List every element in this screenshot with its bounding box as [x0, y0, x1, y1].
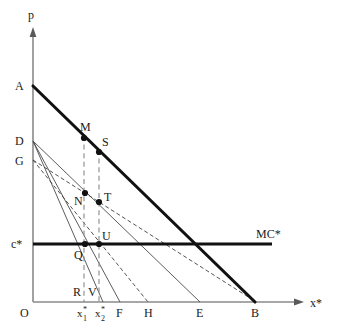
label-S: S: [102, 135, 109, 149]
x-tick-x2-star: *: [101, 305, 105, 314]
label-A: A: [15, 79, 24, 93]
label-V: V: [88, 285, 97, 299]
label-F: F: [116, 306, 123, 320]
line-D-to-inner-foot: [33, 141, 103, 302]
label-E: E: [196, 306, 203, 320]
label-B: B: [251, 306, 259, 320]
x-axis-label: x*: [310, 296, 322, 310]
label-N: N: [74, 194, 83, 208]
label-T: T: [104, 190, 112, 204]
vertical-guide-lines: [84, 136, 99, 302]
economics-figure: p x* O A D G c* MC* M S N T Q U R V x 1 …: [0, 0, 339, 333]
point-T: [96, 199, 102, 205]
point-S: [96, 149, 102, 155]
x-axis-arrow: [294, 299, 304, 306]
label-U: U: [102, 229, 111, 243]
label-c-star: c*: [11, 237, 22, 251]
demand-curve-AB: [33, 86, 255, 302]
label-M: M: [80, 120, 91, 134]
x-tick-x2: x 2 *: [95, 305, 105, 323]
axes-group: [30, 27, 304, 305]
x-tick-x1-subscript: 1: [83, 314, 87, 323]
label-G: G: [15, 154, 24, 168]
dashed-marginal-revenue-lines: [33, 160, 253, 302]
x-tick-x2-subscript: 2: [101, 314, 105, 323]
x-tick-x1-star: *: [83, 305, 87, 314]
point-Q: [82, 241, 88, 247]
label-MC-star: MC*: [256, 227, 281, 241]
x-tick-x1: x 1 *: [77, 305, 87, 323]
line-D-to-F: [33, 141, 120, 302]
label-Q: Q: [74, 248, 83, 262]
label-R: R: [73, 285, 81, 299]
label-H: H: [144, 306, 153, 320]
figure-canvas: p x* O A D G c* MC* M S N T Q U R V x 1 …: [0, 0, 339, 333]
line-G-to-B-dashed: [33, 160, 253, 300]
y-axis-label: p: [28, 8, 34, 22]
point-M: [81, 135, 87, 141]
point-N: [82, 190, 88, 196]
y-axis-arrow: [30, 27, 37, 37]
label-D: D: [15, 134, 24, 148]
origin-label: O: [20, 306, 29, 320]
